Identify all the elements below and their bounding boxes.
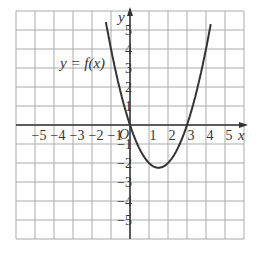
y-axis-label: y bbox=[116, 9, 125, 25]
svg-text:2: 2 bbox=[125, 80, 132, 95]
svg-text:1: 1 bbox=[150, 128, 157, 143]
origin-label: O bbox=[119, 127, 129, 142]
svg-text:4: 4 bbox=[125, 42, 132, 57]
svg-text:−4: −4 bbox=[117, 194, 132, 209]
svg-text:−4: −4 bbox=[51, 128, 66, 143]
svg-text:4: 4 bbox=[207, 128, 214, 143]
function-graph: −5−4−3−2−11234554321−1−2−3−4−5 y = f(x) … bbox=[0, 0, 259, 255]
svg-text:−5: −5 bbox=[117, 213, 132, 228]
svg-text:−2: −2 bbox=[89, 128, 104, 143]
svg-text:5: 5 bbox=[226, 128, 233, 143]
svg-text:3: 3 bbox=[125, 61, 132, 76]
x-axis-label: x bbox=[237, 127, 245, 143]
svg-text:−5: −5 bbox=[32, 128, 47, 143]
svg-text:−3: −3 bbox=[70, 128, 85, 143]
svg-text:3: 3 bbox=[188, 128, 195, 143]
svg-text:−3: −3 bbox=[117, 175, 132, 190]
axes bbox=[16, 7, 248, 239]
curve-label: y = f(x) bbox=[58, 55, 105, 72]
svg-text:5: 5 bbox=[125, 23, 132, 38]
svg-text:1: 1 bbox=[125, 99, 132, 114]
svg-text:−2: −2 bbox=[117, 156, 132, 171]
svg-text:2: 2 bbox=[169, 128, 176, 143]
